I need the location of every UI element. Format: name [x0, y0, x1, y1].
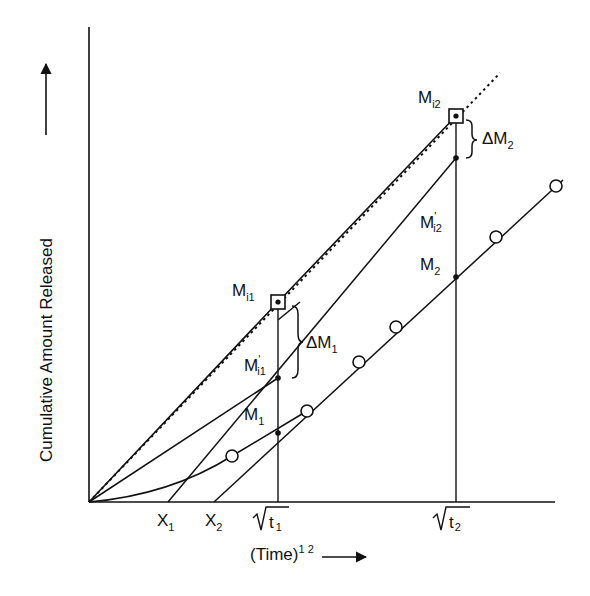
- svg-text:t1: t1: [269, 513, 282, 533]
- m2-dot: [453, 274, 459, 280]
- tick-x2: X2: [205, 511, 222, 533]
- label-m1: M1: [244, 405, 264, 427]
- data-point: [353, 356, 365, 368]
- brace-dm1: [292, 306, 303, 378]
- y-axis-title: Cumulative Amount Released: [37, 238, 56, 462]
- mpi2-dot: [453, 155, 459, 161]
- tick-x1: X1: [157, 511, 174, 533]
- mi1-dot: [275, 299, 280, 304]
- m1-dot: [275, 430, 281, 436]
- brace-dm2: [466, 120, 477, 158]
- data-point: [550, 180, 562, 192]
- axes: [89, 27, 555, 502]
- tick-sqrt-t1: t1: [253, 507, 289, 533]
- mpi1-dot: [275, 375, 281, 381]
- mi2-dot: [453, 113, 458, 118]
- intermediate-line: [168, 158, 456, 502]
- solid-markers: [275, 155, 459, 436]
- data-point: [301, 405, 313, 417]
- data-point: [390, 321, 402, 333]
- label-mi1: Mi1: [232, 281, 255, 303]
- x-axis-title: (Time)1 2: [250, 543, 314, 564]
- experimental-line: [214, 180, 563, 502]
- svg-text:t2: t2: [449, 513, 461, 533]
- tick-sqrt-t2: t2: [433, 507, 470, 533]
- data-point: [226, 450, 238, 462]
- label-mi2: Mi2: [418, 88, 441, 110]
- label-m2: M2: [420, 255, 440, 277]
- label-dm2: ΔM2: [482, 129, 514, 151]
- label-dm1: ΔM1: [306, 333, 338, 355]
- label-mpi2: M'i2: [420, 210, 442, 234]
- data-markers: [226, 180, 562, 462]
- time-guides: [278, 116, 456, 502]
- label-mpi1: M'i1: [244, 353, 266, 377]
- release-diagram: Mi1 Mi2 M'i1 M'i2 M1 M2 ΔM1 ΔM2 X1 X2 t1…: [0, 0, 590, 596]
- data-point: [490, 231, 502, 243]
